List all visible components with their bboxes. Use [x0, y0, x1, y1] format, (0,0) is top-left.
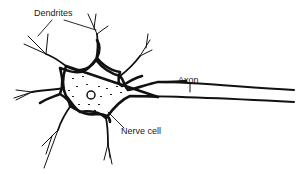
- neuron-diagram: Dendrites Axon Nerve cell: [0, 0, 304, 174]
- dendrite-top: [96, 34, 98, 60]
- axon-label: Axon: [178, 76, 199, 85]
- dendrite-bottom: [106, 118, 108, 144]
- dendrites-label: Dendrites: [34, 9, 73, 18]
- dendrites-leader: [38, 20, 96, 36]
- dendrite-upper-left: [46, 54, 66, 66]
- axon-lower: [130, 96, 294, 102]
- dendrite-lower-left: [58, 104, 72, 130]
- soma: [63, 60, 186, 118]
- neuron-drawing: [0, 0, 304, 174]
- nucleus: [87, 91, 95, 99]
- dendrite-upper-right: [120, 56, 140, 76]
- nerve-cell-label: Nerve cell: [121, 127, 161, 136]
- cell-body-outline: [40, 40, 142, 122]
- dendrite-left: [32, 88, 64, 92]
